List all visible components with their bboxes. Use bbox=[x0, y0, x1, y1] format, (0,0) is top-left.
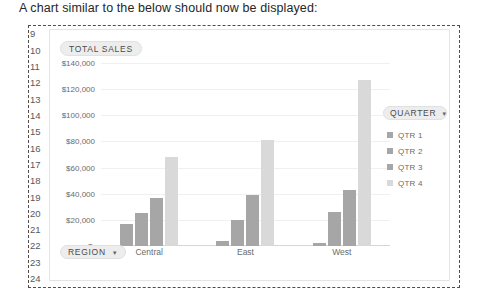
y-axis-tick-label: $40,000 bbox=[66, 189, 95, 198]
legend-header-badge[interactable]: QUARTER ▼ bbox=[383, 106, 447, 120]
row-header[interactable]: 23 bbox=[29, 254, 49, 270]
legend-swatch-icon bbox=[387, 148, 393, 154]
row-header[interactable]: 20 bbox=[29, 205, 49, 221]
bar[interactable] bbox=[231, 220, 244, 246]
bar[interactable] bbox=[358, 80, 371, 246]
row-header[interactable]: 11 bbox=[29, 59, 49, 75]
row-header[interactable]: 18 bbox=[29, 173, 49, 189]
region-badge[interactable]: REGION ▼ bbox=[60, 245, 126, 259]
bar[interactable] bbox=[343, 190, 356, 246]
legend-item-list: QTR 1QTR 2QTR 3QTR 4 bbox=[383, 127, 447, 191]
legend-swatch-icon bbox=[387, 164, 393, 170]
bar-group bbox=[298, 63, 386, 246]
bar[interactable] bbox=[328, 212, 341, 246]
row-header[interactable]: 22 bbox=[29, 238, 49, 254]
page-caption: A chart similar to the below should now … bbox=[19, 1, 318, 15]
row-header[interactable]: 21 bbox=[29, 222, 49, 238]
y-axis-tick-label: $60,000 bbox=[66, 163, 95, 172]
legend-item[interactable]: QTR 2 bbox=[383, 143, 447, 159]
legend-item-label: QTR 3 bbox=[398, 163, 423, 172]
row-header[interactable]: 19 bbox=[29, 189, 49, 205]
row-header[interactable]: 24 bbox=[29, 271, 49, 287]
row-header[interactable]: 9 bbox=[29, 26, 49, 42]
row-header[interactable]: 16 bbox=[29, 140, 49, 156]
legend-item-label: QTR 1 bbox=[398, 131, 423, 140]
row-header[interactable]: 14 bbox=[29, 108, 49, 124]
row-header[interactable]: 10 bbox=[29, 42, 49, 58]
bar[interactable] bbox=[261, 140, 274, 246]
legend-swatch-icon bbox=[387, 132, 393, 138]
bar[interactable] bbox=[135, 213, 148, 246]
bar[interactable] bbox=[246, 195, 259, 246]
legend-item[interactable]: QTR 1 bbox=[383, 127, 447, 143]
y-axis-tick-label: $140,000 bbox=[62, 59, 95, 68]
y-axis-tick-label: $20,000 bbox=[66, 215, 95, 224]
row-header[interactable]: 13 bbox=[29, 91, 49, 107]
row-header[interactable]: 17 bbox=[29, 157, 49, 173]
plot-area bbox=[101, 63, 390, 246]
bar[interactable] bbox=[216, 241, 229, 246]
bar-group bbox=[201, 63, 289, 246]
x-axis: CentralEastWest bbox=[101, 247, 390, 263]
legend-item-label: QTR 2 bbox=[398, 147, 423, 156]
legend-header-label: QUARTER bbox=[390, 108, 436, 118]
y-axis-tick-label: $120,000 bbox=[62, 85, 95, 94]
chevron-down-icon: ▼ bbox=[112, 250, 119, 256]
legend-item[interactable]: QTR 4 bbox=[383, 175, 447, 191]
legend-item-label: QTR 4 bbox=[398, 179, 423, 188]
row-header-gutter: 9101112131415161718192021222324 bbox=[29, 26, 49, 287]
row-header[interactable]: 15 bbox=[29, 124, 49, 140]
bar[interactable] bbox=[313, 243, 326, 246]
legend-swatch-icon bbox=[387, 180, 393, 186]
y-axis-tick-label: $80,000 bbox=[66, 137, 95, 146]
row-header[interactable]: 12 bbox=[29, 75, 49, 91]
bar[interactable] bbox=[150, 198, 163, 246]
x-axis-category-label: East bbox=[201, 247, 289, 257]
region-badge-label: REGION bbox=[68, 247, 106, 257]
chart-object[interactable]: TOTAL SALES $-$20,000$40,000$60,000$80,0… bbox=[49, 29, 450, 281]
bar[interactable] bbox=[165, 157, 178, 246]
x-axis-category-label: West bbox=[298, 247, 386, 257]
bar-groups bbox=[101, 63, 390, 246]
chart-legend: QUARTER ▼ QTR 1QTR 2QTR 3QTR 4 bbox=[383, 106, 447, 191]
bar-group bbox=[105, 63, 193, 246]
bar[interactable] bbox=[120, 224, 133, 246]
chart-title-badge: TOTAL SALES bbox=[60, 41, 142, 56]
y-axis-tick-label: $100,000 bbox=[62, 111, 95, 120]
chart-title-label: TOTAL SALES bbox=[69, 44, 133, 54]
legend-item[interactable]: QTR 3 bbox=[383, 159, 447, 175]
chevron-down-icon: ▼ bbox=[441, 111, 448, 117]
y-axis: $-$20,000$40,000$60,000$80,000$100,000$1… bbox=[50, 63, 99, 246]
